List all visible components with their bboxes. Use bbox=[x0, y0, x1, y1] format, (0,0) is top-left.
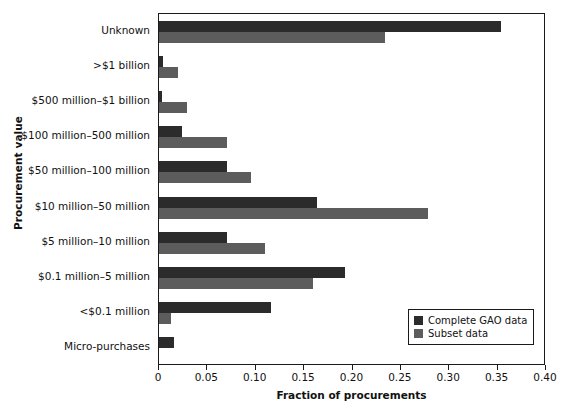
bar-1-0 bbox=[159, 32, 385, 43]
legend-label-complete-gao-data: Complete GAO data bbox=[428, 315, 527, 326]
y-tick-label: <$0.1 million bbox=[0, 305, 150, 317]
y-tick-label: >$1 billion bbox=[0, 59, 150, 71]
x-tick-mark bbox=[255, 365, 256, 370]
y-tick-label: $500 million–$1 billion bbox=[0, 94, 150, 106]
bar-1-3 bbox=[159, 137, 227, 148]
x-tick-mark bbox=[497, 365, 498, 370]
bar-0-7 bbox=[159, 267, 345, 278]
bar-0-8 bbox=[159, 302, 271, 313]
y-tick-label: $10 million–50 million bbox=[0, 200, 150, 212]
bar-0-5 bbox=[159, 197, 317, 208]
x-tick-label: 0.40 bbox=[515, 371, 575, 383]
y-tick-label: $5 million–10 million bbox=[0, 235, 150, 247]
x-tick-mark bbox=[352, 365, 353, 370]
bar-1-2 bbox=[159, 102, 187, 113]
legend-label-subset-data: Subset data bbox=[428, 328, 488, 339]
legend-swatch-subset-data bbox=[414, 329, 423, 338]
bar-group bbox=[159, 49, 544, 84]
bar-0-0 bbox=[159, 21, 501, 32]
legend-swatch-complete-gao-data bbox=[414, 316, 423, 325]
x-tick-mark bbox=[448, 365, 449, 370]
x-tick-mark bbox=[206, 365, 207, 370]
bar-group bbox=[159, 14, 544, 49]
bar-0-6 bbox=[159, 232, 227, 243]
x-tick-mark bbox=[303, 365, 304, 370]
y-tick-label: $100 million–500 million bbox=[0, 129, 150, 141]
y-tick-label: $50 million–100 million bbox=[0, 164, 150, 176]
bar-1-6 bbox=[159, 243, 265, 254]
bar-group bbox=[159, 84, 544, 119]
bar-0-4 bbox=[159, 161, 227, 172]
bar-1-4 bbox=[159, 172, 251, 183]
bar-0-9 bbox=[159, 337, 174, 348]
bar-0-3 bbox=[159, 126, 182, 137]
x-axis-title: Fraction of procurements bbox=[158, 389, 545, 401]
y-tick-label: Micro-purchases bbox=[0, 340, 150, 352]
bar-group bbox=[159, 260, 544, 295]
legend-item: Subset data bbox=[414, 327, 527, 340]
bar-1-5 bbox=[159, 208, 428, 219]
chart-figure: Procurement value Unknown>$1 billion$500… bbox=[0, 0, 577, 413]
x-tick-mark bbox=[545, 365, 546, 370]
chart-legend: Complete GAO data Subset data bbox=[408, 309, 534, 345]
bar-0-1 bbox=[159, 56, 163, 67]
bar-1-8 bbox=[159, 313, 171, 324]
bar-group bbox=[159, 225, 544, 260]
y-tick-label: $0.1 million–5 million bbox=[0, 270, 150, 282]
bar-group bbox=[159, 155, 544, 190]
bar-group bbox=[159, 190, 544, 225]
bar-0-2 bbox=[159, 91, 162, 102]
bar-1-7 bbox=[159, 278, 313, 289]
bar-1-1 bbox=[159, 67, 178, 78]
y-tick-label: Unknown bbox=[0, 24, 150, 36]
legend-item: Complete GAO data bbox=[414, 314, 527, 327]
bar-group bbox=[159, 120, 544, 155]
x-tick-mark bbox=[400, 365, 401, 370]
x-tick-mark bbox=[158, 365, 159, 370]
